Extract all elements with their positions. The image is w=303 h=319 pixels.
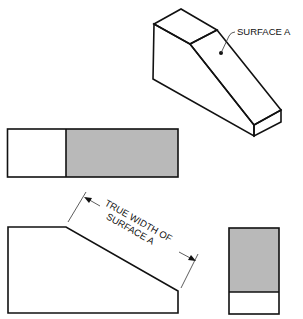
extension-line-left — [68, 192, 86, 222]
side-view — [229, 228, 279, 314]
dimension-label: TRUE WIDTH OF SURFACE A — [98, 197, 175, 253]
iso-surface-a — [190, 30, 281, 125]
orthographic-projection-diagram: SURFACE A TRUE WIDTH OF SURFACE A — [0, 0, 303, 319]
isometric-view: SURFACE A — [153, 9, 291, 136]
dim-arrow-right-head — [188, 255, 196, 261]
iso-top-face — [154, 9, 217, 44]
iso-left-face — [153, 24, 254, 136]
iso-end-face — [254, 110, 281, 136]
side-view-shaded — [229, 228, 279, 292]
surface-a-callout: SURFACE A — [237, 26, 291, 37]
top-view — [8, 129, 179, 177]
top-view-shaded — [66, 129, 178, 177]
dim-arrow-left-head — [84, 197, 92, 203]
front-view: TRUE WIDTH OF SURFACE A — [8, 192, 198, 313]
